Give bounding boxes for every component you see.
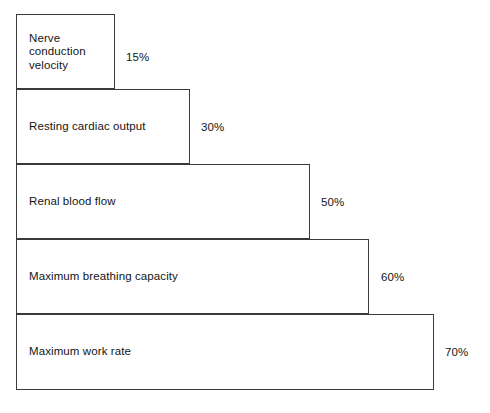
bar-category-label: Maximum breathing capacity <box>29 270 178 284</box>
bar-value-label: 30% <box>201 121 224 133</box>
table-row: Maximum breathing capacity <box>16 239 369 314</box>
bar-value-label: 60% <box>381 271 404 283</box>
bar-category-label: Renal blood flow <box>29 195 116 209</box>
horizontal-bar-chart: Nerve conduction velocity 15% Resting ca… <box>0 0 490 413</box>
table-row: Nerve conduction velocity <box>16 14 115 89</box>
table-row: Maximum work rate <box>16 314 434 390</box>
table-row: Resting cardiac output <box>16 89 190 164</box>
bar-value-label: 15% <box>126 51 149 63</box>
bar-category-label: Nerve conduction velocity <box>29 31 86 72</box>
bar-value-label: 70% <box>445 346 468 358</box>
bar-category-label: Resting cardiac output <box>29 120 146 134</box>
bar-value-label: 50% <box>321 196 344 208</box>
table-row: Renal blood flow <box>16 164 310 239</box>
bar-category-label: Maximum work rate <box>29 345 131 359</box>
